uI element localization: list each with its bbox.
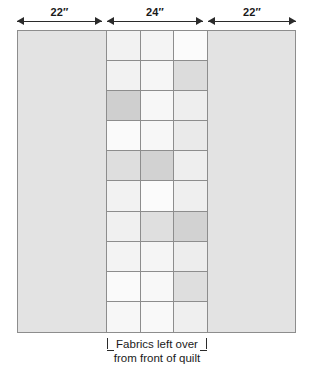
ruler-line: [17, 21, 102, 22]
patch-cell: [107, 302, 141, 332]
dimension-ruler-left: 22″: [17, 6, 102, 28]
quilt-backing-rectangle: [17, 30, 296, 333]
patch-cell: [141, 151, 175, 181]
patch-cell: [107, 242, 141, 272]
dimension-ruler-center: 24″: [107, 6, 203, 28]
strip-row: [107, 302, 207, 332]
patch-cell: [174, 272, 207, 302]
dimension-value: 24″: [142, 6, 168, 18]
bracket-tick-left-icon: [107, 338, 108, 349]
patch-cell: [174, 302, 207, 332]
quilt-backing-diagram: 22″ 24″ 22″: [0, 0, 314, 374]
patch-cell: [174, 151, 207, 181]
patch-cell: [107, 151, 141, 181]
strip-row: [107, 31, 207, 61]
patch-cell: [141, 31, 175, 61]
patch-cell: [174, 181, 207, 211]
strip-row: [107, 91, 207, 121]
patch-cell: [141, 272, 175, 302]
diagram-caption: Fabrics left over from front of quilt: [0, 337, 314, 365]
patch-cell: [174, 121, 207, 151]
patch-cell: [141, 242, 175, 272]
patch-cell: [174, 91, 207, 121]
ruler-line: [107, 21, 203, 22]
strip-row: [107, 212, 207, 242]
patch-cell: [107, 121, 141, 151]
patch-cell: [107, 31, 141, 61]
bracket-foot-left-icon: [107, 350, 114, 351]
patch-cell: [141, 121, 175, 151]
right-fabric-panel: [207, 31, 295, 332]
patch-cell: [107, 61, 141, 91]
caption-line-1: Fabrics left over: [116, 338, 198, 350]
strip-row: [107, 181, 207, 211]
patch-cell: [141, 91, 175, 121]
center-pieced-strip: [107, 31, 207, 332]
dimension-label-right-panel: 22″: [208, 6, 296, 19]
bracket-foot-right-icon: [200, 350, 207, 351]
patch-cell: [107, 272, 141, 302]
dimension-ruler-right: 22″: [208, 6, 296, 28]
strip-row: [107, 272, 207, 302]
patch-cell: [107, 212, 141, 242]
ruler-line: [208, 21, 296, 22]
strip-row: [107, 242, 207, 272]
patch-cell: [141, 212, 175, 242]
strip-row: [107, 151, 207, 181]
dimension-value: 22″: [46, 6, 72, 18]
patch-cell: [141, 181, 175, 211]
caption-line-1-wrapper: Fabrics left over: [107, 337, 207, 351]
patch-cell: [141, 302, 175, 332]
bracket-tick-right-icon: [206, 338, 207, 349]
strip-row: [107, 61, 207, 91]
patch-cell: [107, 91, 141, 121]
caption-line-2: from front of quilt: [0, 351, 314, 365]
dimension-label-center-strip: 24″: [107, 6, 203, 19]
patch-cell: [141, 61, 175, 91]
patch-cell: [174, 61, 207, 91]
patch-cell: [107, 181, 141, 211]
patch-cell: [174, 212, 207, 242]
left-fabric-panel: [18, 31, 107, 332]
dimension-label-left-panel: 22″: [17, 6, 102, 19]
patch-cell: [174, 31, 207, 61]
patch-cell: [174, 242, 207, 272]
strip-row: [107, 121, 207, 151]
dimension-value: 22″: [239, 6, 265, 18]
